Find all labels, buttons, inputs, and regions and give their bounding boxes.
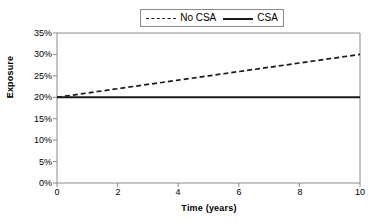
series-line-no-csa xyxy=(57,54,360,97)
x-axis-ticks xyxy=(57,183,360,187)
axis-frame xyxy=(57,33,360,183)
line-chart: No CSA CSA Exposure 35% 30% 25% 20% 15% … xyxy=(0,0,377,223)
y-axis-ticks xyxy=(53,33,57,183)
plot-area xyxy=(0,0,377,223)
